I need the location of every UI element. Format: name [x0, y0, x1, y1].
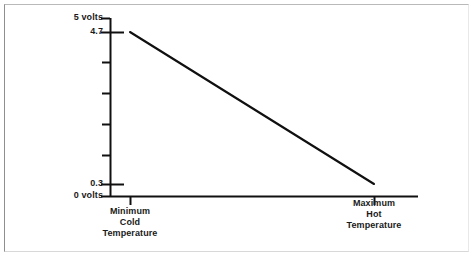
x-axis-label-min-line3: Temperature	[82, 228, 178, 239]
chart-figure: 5 volts 4.7 0.3 0 volts Minimum Cold Tem…	[0, 0, 474, 257]
x-axis-label-minimum-cold-temperature: Minimum Cold Temperature	[82, 206, 178, 239]
y-axis-label-5-volts: 5 volts	[74, 12, 103, 23]
data-series-line	[130, 32, 374, 184]
x-axis-label-max-line3: Temperature	[326, 220, 422, 231]
x-axis-label-min-line2: Cold	[82, 217, 178, 228]
y-axis-label-0-volts: 0 volts	[74, 190, 103, 201]
y-axis-label-4-7: 4.7	[90, 26, 103, 37]
x-axis-label-maximum-hot-temperature: Maximum Hot Temperature	[326, 198, 422, 231]
x-axis-label-max-line2: Hot	[326, 209, 422, 220]
x-axis-label-min-line1: Minimum	[82, 206, 178, 217]
x-axis-label-max-line1: Maximum	[326, 198, 422, 209]
y-axis-label-0-3: 0.3	[90, 178, 103, 189]
